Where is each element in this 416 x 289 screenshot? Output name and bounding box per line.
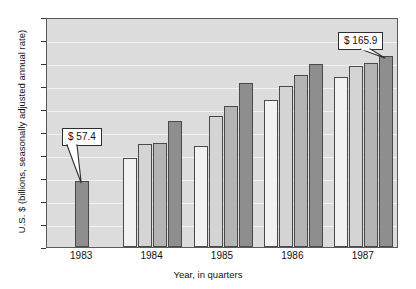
annotation-pointer [0,0,416,289]
bar-chart: U.S. $ (billions, seasonally adjusted an… [0,0,416,289]
